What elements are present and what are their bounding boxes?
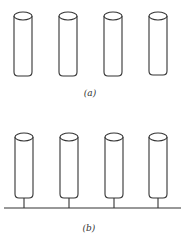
cylinder-on-stem xyxy=(60,133,78,208)
cylinder xyxy=(149,12,167,75)
cylinder-on-stem xyxy=(149,133,167,208)
panel-label-b: (b) xyxy=(83,223,96,233)
panel-b: (b) xyxy=(4,133,181,233)
panel-a: (a) xyxy=(14,12,167,98)
panel-label-a: (a) xyxy=(84,88,97,98)
figure-canvas: (a) (b) xyxy=(0,0,189,241)
cylinder xyxy=(14,12,32,76)
cylinder-on-stem xyxy=(105,133,123,208)
cylinder xyxy=(104,12,122,76)
cylinder-on-stem xyxy=(15,133,33,208)
cylinder xyxy=(59,12,77,76)
